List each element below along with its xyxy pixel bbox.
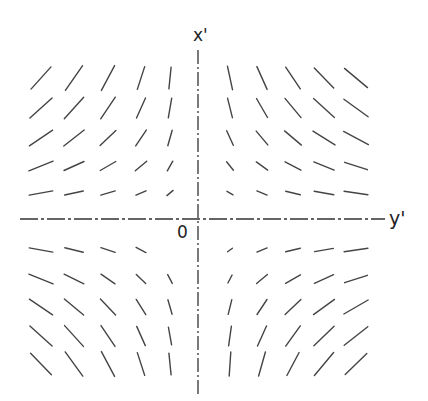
slope-segment [344,99,368,117]
slope-segment [29,248,53,252]
slope-segment [344,131,369,144]
origin-label: 0 [177,222,188,242]
slope-segment [137,353,144,376]
slope-segment [259,352,266,376]
slope-segment [64,299,83,315]
slope-segment [137,98,146,118]
slope-segment [314,326,334,345]
slope-segment [101,274,115,284]
slope-segment [315,248,334,251]
slope-segment [228,248,233,252]
slope-segment [30,326,52,346]
slope-segment [136,247,146,252]
slope-segment [64,97,83,119]
slope-segment [30,98,52,118]
slope-segment [137,67,144,90]
slope-segment [257,67,267,90]
slope-segment [167,190,173,195]
slope-segment [29,130,52,146]
slope-segment [258,326,267,346]
slope-segment [29,299,52,315]
slope-segment [29,191,53,195]
slope-segment [65,191,84,195]
slope-segment [345,68,368,87]
slope-segment [314,353,333,376]
slope-segment [228,275,232,283]
slope-segment [101,352,114,377]
slope-segment [101,191,115,195]
slope-segment [64,130,84,146]
slope-segment [65,66,82,91]
slope-segment [136,275,145,284]
slope-segment [287,353,299,376]
slope-segment [227,191,233,195]
slope-segment [65,248,83,253]
slope-segment [64,274,84,284]
slope-segment [100,299,115,315]
slope-segment [286,275,301,284]
slope-segment [100,162,116,171]
slope-segment [345,275,368,282]
slope-segment [257,99,268,118]
slope-segment [168,327,171,345]
slope-segment [257,191,267,195]
slope-segment [256,131,268,145]
slope-segment [100,130,116,145]
slope-segment [227,162,234,171]
slope-segment [286,248,301,252]
slope-segment [256,162,267,170]
slope-segment [286,191,301,195]
slope-segment [31,67,51,89]
direction-field [0,0,428,401]
slope-segment [228,98,233,117]
slope-segment [228,300,232,315]
slope-segment [137,326,146,345]
slope-segment [313,131,335,145]
slope-segment [65,352,83,376]
slope-segment [101,326,115,347]
slope-segment [286,326,301,346]
vertical-axis-label: x' [193,25,208,45]
slope-segment [257,300,267,315]
slope-segment [257,275,268,284]
slope-segment [135,161,146,171]
slope-segment [314,275,333,284]
slope-segment [314,68,333,88]
slope-segment [285,98,301,117]
slope-segment [229,326,232,346]
slope-segment [344,191,368,194]
slope-segment [345,162,368,169]
slope-segment [136,130,147,146]
slope-segment [169,353,171,375]
slope-segment [285,131,302,145]
slope-segment [228,66,233,89]
slope-segment [344,300,368,314]
slope-segment [31,353,52,375]
slope-segment [314,99,335,118]
slope-segment [314,162,334,170]
slope-segment [167,161,173,171]
slope-segment [136,299,146,314]
slope-segment [344,248,368,251]
slope-segment [168,98,171,118]
slope-segment [345,354,367,375]
slope-segment [314,191,334,194]
slope-segment [29,274,53,284]
slope-segment [286,67,301,89]
slope-segment [169,67,171,89]
slope-segment [64,162,84,171]
slope-segment [29,161,53,171]
slope-segment [136,191,146,195]
slope-segment [285,299,301,314]
slope-segment [101,248,115,253]
slope-segment [344,327,368,345]
slope-segment [65,326,84,347]
slope-segment [314,299,335,314]
slope-segment [168,275,173,284]
slope-segment [229,352,231,376]
slope-segment [101,66,114,91]
slope-segment [168,300,172,314]
slope-segment [257,248,267,252]
slope-segment [101,97,116,119]
slope-segment [285,162,301,170]
